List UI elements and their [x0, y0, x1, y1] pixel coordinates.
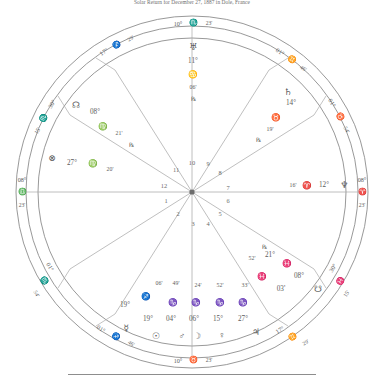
- uranus-degree: 11°: [188, 58, 198, 65]
- pluto-minute: 52': [249, 256, 256, 262]
- north-node-minute: 21': [116, 131, 123, 137]
- descendant-minute: 23': [359, 203, 366, 209]
- astrology-chart: Solar Return for December 27, 1887 in Do…: [0, 0, 384, 382]
- ascendant-sign-icon: ♎: [18, 189, 27, 196]
- ic-minute: 23': [206, 358, 213, 364]
- part-of-fortune-minute: 20': [107, 167, 114, 173]
- descendant-degree: 08°: [358, 177, 367, 183]
- descendant-sign-icon: ♈: [358, 189, 367, 196]
- sun-degree: 19°: [143, 316, 153, 323]
- mercury-icon: ☿: [123, 324, 129, 333]
- jupiter-degree: 27°: [238, 316, 248, 323]
- jupiter-icon: ♃: [252, 328, 260, 337]
- footer-divider: [68, 374, 316, 375]
- uranus-sign-icon: ♋: [188, 71, 198, 79]
- south-node-degree: 08°: [294, 273, 304, 280]
- saturn-retrograde-icon: ℞: [256, 138, 261, 144]
- north-node-sign-icon: ♍: [98, 123, 108, 131]
- chart-center-dot: [189, 189, 194, 194]
- neptune-sign-icon: ♈: [302, 182, 312, 190]
- jupiter-minute: 33': [242, 283, 249, 289]
- venus-icon: ♀: [219, 331, 226, 340]
- north-node-degree: 08°: [90, 109, 100, 116]
- saturn-degree: 14°: [286, 100, 296, 107]
- ascendant-minute: 23': [19, 203, 26, 209]
- ic-sign-icon: ♉: [189, 357, 198, 364]
- venus-degree: 15°: [213, 316, 223, 323]
- neptune-minute: 16': [290, 183, 297, 189]
- ic-degree: 10°: [174, 358, 183, 364]
- jupiter-sign-icon: ♑: [238, 299, 248, 307]
- house-number-8: 8: [218, 170, 221, 176]
- mc-degree: 10°: [174, 21, 183, 27]
- mars-minute: 49': [173, 281, 180, 287]
- house-number-4: 4: [206, 221, 209, 227]
- mercury-sign-icon: ♐: [141, 293, 151, 301]
- house-number-11: 11: [173, 167, 179, 173]
- sun-icon: ☉: [152, 332, 160, 341]
- house-number-10: 10: [189, 160, 195, 166]
- house-number-6: 6: [226, 198, 229, 204]
- venus-minute: 52': [217, 283, 224, 289]
- uranus-retrograde-icon: ℞: [191, 97, 196, 103]
- house-number-3: 3: [191, 221, 194, 227]
- house-number-1: 1: [164, 198, 167, 204]
- saturn-sign-icon: ♉: [271, 114, 281, 122]
- mercury-degree: 19°: [120, 302, 130, 309]
- north-node-icon: ☊: [72, 101, 80, 110]
- house-number-7: 7: [226, 185, 229, 191]
- moon-icon: ☽: [193, 332, 201, 341]
- mars-sign-icon: ♑: [168, 299, 178, 307]
- saturn-icon: ♄: [284, 88, 292, 97]
- neptune-degree: 12°: [319, 182, 329, 189]
- venus-sign-icon: ♑: [215, 299, 225, 307]
- saturn-minute: 19': [267, 127, 274, 133]
- moon-degree: 06°: [189, 316, 199, 323]
- mars-degree: 04°: [166, 316, 176, 323]
- uranus-icon: ♅: [189, 43, 197, 52]
- part-of-fortune-icon: ⊗: [48, 154, 56, 163]
- ascendant-degree: 08°: [18, 177, 27, 183]
- neptune-icon: ♆: [340, 181, 348, 190]
- mars-icon: ♂: [179, 332, 186, 341]
- north-node-retrograde-icon: ℞: [129, 143, 134, 149]
- house-number-5: 5: [218, 211, 221, 217]
- south-node-sign-icon: ♓: [257, 273, 267, 281]
- part-of-fortune-sign-icon: ♍: [88, 160, 98, 168]
- pluto-sign-icon: ♓: [282, 260, 292, 268]
- south-node-icon: ☋: [314, 285, 322, 294]
- south-node-minute: 03': [277, 286, 285, 293]
- house-number-2: 2: [176, 211, 179, 217]
- house-number-9: 9: [206, 161, 209, 167]
- pluto-degree: 21°: [265, 252, 275, 259]
- moon-sign-icon: ♑: [191, 299, 201, 307]
- uranus-minute: 06': [190, 85, 197, 91]
- part-of-fortune-degree: 27°: [67, 160, 77, 167]
- mc-minute: 23': [206, 21, 213, 27]
- house-number-12: 12: [161, 183, 167, 189]
- mc-sign-icon: ♏: [189, 20, 198, 27]
- pluto-retrograde-icon: ℞: [262, 245, 267, 251]
- moon-minute: 24': [195, 283, 202, 289]
- sun-minute: 06': [156, 281, 163, 287]
